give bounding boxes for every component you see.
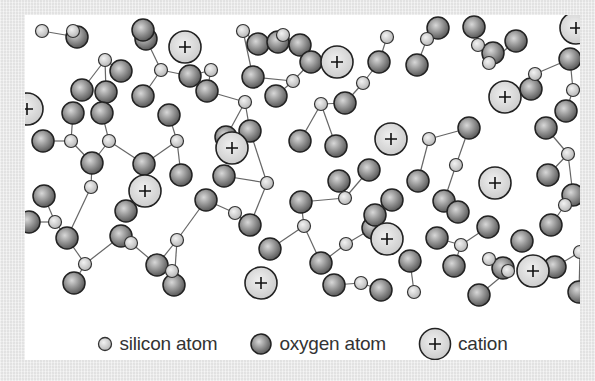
oxygen-atom <box>242 66 264 88</box>
oxygen-atom <box>463 16 485 38</box>
oxygen-atom <box>310 252 332 274</box>
oxygen-atom-icon <box>249 332 273 356</box>
silicon-atom <box>239 96 252 109</box>
silicon-atom <box>67 25 80 38</box>
oxygen-atom <box>511 230 533 252</box>
oxygen-atom <box>535 117 557 139</box>
oxygen-atom <box>247 33 269 55</box>
silicon-atom <box>408 286 421 299</box>
oxygen-atom <box>289 130 311 152</box>
oxygen-atom <box>406 54 428 76</box>
oxygen-atom <box>158 104 180 126</box>
oxygen-atom <box>91 102 113 124</box>
silicon-atom <box>155 64 168 77</box>
oxygen-atom <box>364 204 386 226</box>
silicon-atom <box>166 265 179 278</box>
silicon-atom <box>381 31 394 44</box>
cation <box>25 93 43 125</box>
silicon-atom <box>171 234 184 247</box>
oxygen-atom <box>56 227 78 249</box>
silicon-atom <box>339 192 352 205</box>
oxygen-atom <box>407 170 429 192</box>
silicon-atom <box>559 199 572 212</box>
oxygen-atom <box>559 48 580 70</box>
silicon-atom <box>65 135 78 148</box>
silicon-atom <box>567 84 580 97</box>
oxygen-atom <box>325 135 347 157</box>
oxygen-atom <box>426 227 448 249</box>
silicon-atom <box>103 135 116 148</box>
oxygen-atom <box>300 51 322 73</box>
cation <box>245 267 277 299</box>
silicon-atom <box>340 238 353 251</box>
silicon-atom <box>36 25 49 38</box>
cation <box>375 123 407 155</box>
oxygen-atom <box>63 272 85 294</box>
legend-label-silicon: silicon atom <box>119 333 217 355</box>
cation <box>560 15 580 44</box>
silicon-atom <box>502 265 515 278</box>
silicon-atom <box>237 25 250 38</box>
cation <box>479 167 511 199</box>
oxygen-atom <box>540 214 562 236</box>
legend-label-cation: cation <box>458 333 508 355</box>
oxygen-atom <box>334 92 356 114</box>
oxygen-atom <box>265 85 287 107</box>
silicon-atom <box>421 33 434 46</box>
oxygen-atom <box>568 281 580 303</box>
oxygen-atom <box>443 255 465 277</box>
legend-item-silicon: silicon atom <box>97 333 217 355</box>
oxygen-atom <box>81 152 103 174</box>
silicon-atom <box>357 77 370 90</box>
cation-icon <box>418 327 452 360</box>
cation <box>129 175 161 207</box>
cation <box>371 223 403 255</box>
silicon-atom <box>483 57 496 70</box>
silicon-atom <box>529 68 542 81</box>
silicon-atom <box>483 253 496 266</box>
cation <box>169 31 201 63</box>
oxygen-atom <box>399 250 421 272</box>
oxygen-atom <box>477 216 499 238</box>
oxygen-atom <box>196 80 218 102</box>
silicon-atom <box>472 39 485 52</box>
cation <box>517 255 549 287</box>
silicon-atom <box>423 133 436 146</box>
oxygen-atom <box>505 30 527 52</box>
oxygen-atom <box>95 81 117 103</box>
oxygen-atom <box>132 85 154 107</box>
oxygen-atom <box>323 274 345 296</box>
oxygen-atom <box>537 164 559 186</box>
silicon-atom <box>49 216 62 229</box>
oxygen-atom <box>195 189 217 211</box>
oxygen-atom <box>555 100 577 122</box>
silicon-atom <box>99 54 112 67</box>
oxygen-atom <box>33 185 55 207</box>
cation <box>216 132 248 164</box>
legend-item-cation: cation <box>418 327 508 360</box>
legend-label-oxygen: oxygen atom <box>279 333 386 355</box>
silicon-atom <box>562 148 575 161</box>
oxygen-atom <box>71 79 93 101</box>
oxygen-atom <box>368 51 390 73</box>
silicon-atom <box>315 98 328 111</box>
silicon-atom <box>455 239 468 252</box>
oxygen-atom <box>32 130 54 152</box>
oxygen-atom <box>468 284 490 306</box>
legend: silicon atom oxygen atom cation <box>25 329 580 359</box>
oxygen-atom <box>110 60 132 82</box>
silicon-atom <box>85 181 98 194</box>
silicon-atom <box>171 135 184 148</box>
silicon-atom <box>229 207 242 220</box>
silicon-atom <box>298 220 311 233</box>
oxygen-atom <box>132 19 154 41</box>
oxygen-atom <box>133 153 155 175</box>
silicon-atom <box>450 159 463 172</box>
silicon-atom <box>205 64 218 77</box>
oxygen-atom <box>146 254 168 276</box>
silicon-atom <box>125 237 138 250</box>
oxygen-atom <box>290 191 312 213</box>
silicon-atom <box>261 177 274 190</box>
oxygen-atom <box>370 279 392 301</box>
oxygen-atom <box>358 159 380 181</box>
